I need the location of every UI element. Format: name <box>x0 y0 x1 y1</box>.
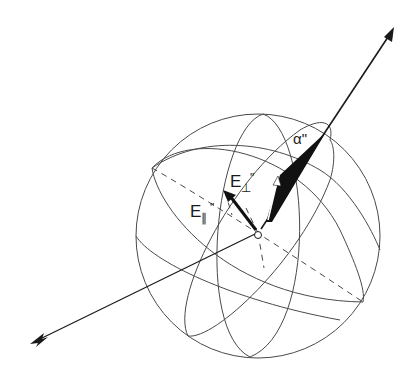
svg-text:E: E <box>230 172 241 191</box>
label-e-par: E ∥ " <box>190 201 214 225</box>
label-alpha: α" <box>293 130 307 147</box>
fletching-icon <box>30 333 48 347</box>
polarization-sphere-diagram: α" E ⊥ " E ∥ " <box>0 0 414 373</box>
svg-text:": " <box>250 171 254 185</box>
svg-text:∥: ∥ <box>201 211 207 225</box>
label-e-perp: E ⊥ " <box>230 171 254 195</box>
svg-text:α": α" <box>293 130 307 147</box>
incoming-ray <box>30 234 255 347</box>
hidden-lines <box>225 192 264 268</box>
origin-point <box>255 232 262 239</box>
svg-text:": " <box>210 201 214 215</box>
svg-text:E: E <box>190 202 201 221</box>
